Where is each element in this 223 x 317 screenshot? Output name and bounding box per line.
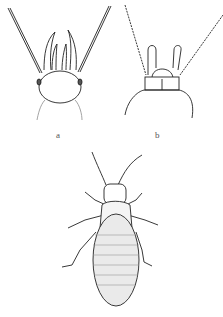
panel-b-drawing xyxy=(125,5,223,118)
illustration xyxy=(0,0,223,317)
panel-label-a: a xyxy=(56,130,60,140)
whole-insect-drawing xyxy=(62,152,158,306)
panel-a-drawing xyxy=(8,6,111,120)
panel-label-b: b xyxy=(155,130,160,140)
